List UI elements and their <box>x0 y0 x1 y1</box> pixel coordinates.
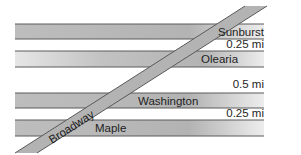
label-washington: Washington <box>138 95 198 107</box>
label-maple: Maple <box>95 122 126 134</box>
label-distance-sunburst-olearia: 0.25 mi <box>226 38 264 50</box>
label-distance-washington-maple: 0.25 mi <box>226 107 264 119</box>
label-sunburst: Sunburst <box>218 26 265 38</box>
label-distance-olearia-washington: 0.5 mi <box>233 78 264 90</box>
street-map: Sunburst 0.25 mi Olearia 0.5 mi Washingt… <box>0 0 301 155</box>
label-olearia: Olearia <box>201 53 239 65</box>
